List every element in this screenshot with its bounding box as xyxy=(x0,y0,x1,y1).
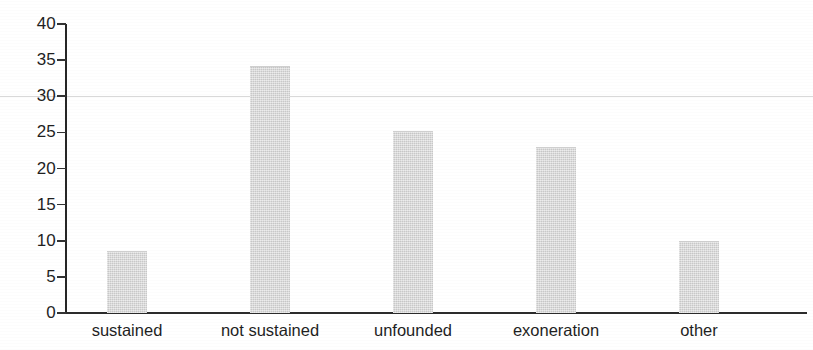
y-axis-tick-label: 40 xyxy=(28,15,56,32)
x-axis-category-label: other xyxy=(609,321,789,339)
y-axis-tick xyxy=(57,95,66,97)
plot-area xyxy=(66,24,807,313)
y-axis-tick xyxy=(57,240,66,242)
y-axis-tick xyxy=(57,132,66,134)
bar xyxy=(679,241,719,313)
y-axis-tick-label: 20 xyxy=(28,160,56,177)
y-axis-tick xyxy=(57,168,66,170)
bar xyxy=(250,66,290,313)
y-axis-tick-label: 5 xyxy=(28,268,56,285)
y-axis-tick xyxy=(57,312,66,314)
y-axis-tick xyxy=(57,59,66,61)
y-axis-tick-label: 15 xyxy=(28,196,56,213)
y-axis-tick-label: 25 xyxy=(28,123,56,140)
y-axis-tick-label: 0 xyxy=(28,304,56,321)
y-axis-tick-label: 30 xyxy=(28,87,56,104)
bar xyxy=(107,251,147,313)
y-axis-tick xyxy=(57,276,66,278)
y-axis-tick-label: 10 xyxy=(28,232,56,249)
y-axis-tick xyxy=(57,204,66,206)
y-axis-tick-label: 35 xyxy=(28,51,56,68)
bar xyxy=(536,147,576,313)
bar-chart-figure: 0510152025303540 sustainednot sustainedu… xyxy=(0,0,813,350)
y-axis-tick xyxy=(57,23,66,25)
bar xyxy=(393,131,433,313)
